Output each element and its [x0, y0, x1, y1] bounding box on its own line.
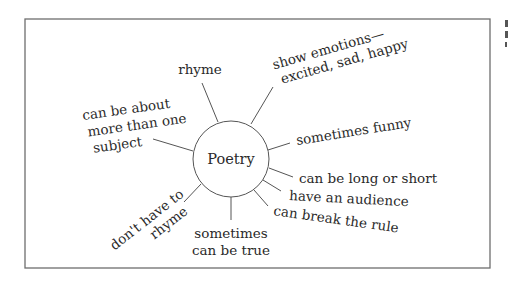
- branch-show-emotions: show emotions— excited, sad, happy: [270, 19, 410, 87]
- spoke-break-rule: [254, 190, 268, 206]
- cropped-text-fragment: [505, 20, 508, 27]
- branch-dont-rhyme: don't have to rhyme: [106, 186, 196, 266]
- branch-label: can be long or short: [299, 170, 438, 186]
- branch-sometimes-funny: sometimes funny: [295, 114, 413, 148]
- branch-long-or-short: can be long or short: [299, 170, 438, 186]
- branch-rhyme: rhyme: [178, 61, 222, 77]
- branch-sometimes-true: sometimes can be true: [192, 225, 270, 258]
- branch-about-subjects: can be about more than one subject: [81, 93, 190, 157]
- branch-label: can be true: [192, 242, 270, 258]
- spoke-about-subjects: [153, 139, 193, 151]
- poetry-concept-web: Poetry rhyme show emotions— excited, sad…: [0, 0, 515, 281]
- spoke-dont-rhyme: [184, 184, 201, 202]
- branch-label: sometimes funny: [295, 114, 413, 148]
- branch-label: rhyme: [178, 61, 222, 77]
- center-label: Poetry: [207, 151, 255, 167]
- spoke-long-or-short: [269, 168, 293, 177]
- spoke-show-emotions: [251, 87, 273, 124]
- spoke-sometimes-funny: [268, 143, 290, 150]
- spoke-audience: [263, 180, 281, 191]
- spoke-rhyme: [202, 83, 218, 122]
- cropped-text-fragment: [505, 42, 507, 47]
- cropped-text-fragment: [505, 31, 508, 38]
- branch-label: sometimes: [194, 225, 267, 241]
